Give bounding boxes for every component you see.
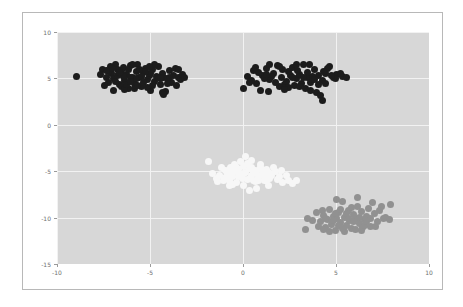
data-point <box>356 214 363 221</box>
x-tick-mark <box>57 264 58 267</box>
data-point <box>110 87 117 94</box>
data-point <box>229 181 236 188</box>
data-point <box>289 74 296 81</box>
data-point <box>233 164 240 171</box>
y-tick-label: 5 <box>27 75 51 82</box>
data-point <box>293 177 300 184</box>
x-tick-label: 10 <box>425 269 433 276</box>
data-point <box>253 185 260 192</box>
x-tick-label: 0 <box>241 269 245 276</box>
data-point <box>160 91 167 98</box>
data-point <box>367 215 374 222</box>
data-point <box>343 74 350 81</box>
data-point <box>257 87 264 94</box>
data-point <box>255 177 262 184</box>
data-point <box>322 215 329 222</box>
data-point <box>116 69 123 76</box>
matplotlib-figure: -15-10-50510 -10-50510 <box>22 12 443 290</box>
data-point <box>263 71 270 78</box>
data-point <box>274 176 281 183</box>
data-point <box>214 178 221 185</box>
data-point <box>339 225 346 232</box>
data-point <box>149 82 156 89</box>
y-tick-label: -10 <box>27 214 51 221</box>
x-tick-label: -10 <box>52 269 62 276</box>
x-tick-mark <box>243 264 244 267</box>
data-point <box>339 198 346 205</box>
data-point <box>101 82 108 89</box>
y-tick-mark <box>54 218 57 219</box>
data-point <box>293 61 300 68</box>
x-tick-label: 5 <box>334 269 338 276</box>
x-tick-mark <box>429 264 430 267</box>
data-point <box>352 226 359 233</box>
scatter-plot-axes <box>57 32 429 264</box>
data-point <box>129 61 136 68</box>
data-point <box>181 74 188 81</box>
data-point <box>205 158 212 165</box>
data-point <box>246 79 253 86</box>
gridline-vertical <box>243 32 244 264</box>
data-point <box>326 228 333 235</box>
data-point <box>328 72 335 79</box>
data-point <box>73 73 80 80</box>
data-point <box>246 187 253 194</box>
data-point <box>322 80 329 87</box>
x-tick-mark <box>150 264 151 267</box>
y-tick-label: -5 <box>27 168 51 175</box>
y-tick-label: 0 <box>27 121 51 128</box>
gridline-horizontal <box>57 125 429 126</box>
y-tick-mark <box>54 32 57 33</box>
data-point <box>296 83 303 90</box>
data-point <box>265 88 272 95</box>
x-tick-label: -5 <box>147 269 153 276</box>
data-point <box>103 67 110 74</box>
data-point <box>387 201 394 208</box>
data-point <box>337 70 344 77</box>
data-point <box>343 210 350 217</box>
screenshot-root: -15-10-50510 -10-50510 <box>0 0 463 307</box>
data-point <box>306 61 313 68</box>
data-point <box>218 164 225 171</box>
data-point <box>146 63 153 70</box>
gridline-horizontal <box>57 32 429 33</box>
data-point <box>376 207 383 214</box>
data-point <box>319 207 326 214</box>
data-point <box>319 97 326 104</box>
x-tick-mark <box>336 264 337 267</box>
data-point <box>240 85 247 92</box>
data-point <box>252 64 259 71</box>
data-point <box>138 73 145 80</box>
y-tick-mark <box>54 171 57 172</box>
data-point <box>209 170 216 177</box>
y-tick-mark <box>54 125 57 126</box>
data-point <box>281 86 288 93</box>
data-point <box>266 61 273 68</box>
data-point <box>302 226 309 233</box>
data-point <box>372 223 379 230</box>
y-tick-label: 10 <box>27 29 51 36</box>
y-tick-label: -15 <box>27 261 51 268</box>
data-point <box>354 194 361 201</box>
y-tick-mark <box>54 78 57 79</box>
gridline-vertical <box>57 32 58 264</box>
